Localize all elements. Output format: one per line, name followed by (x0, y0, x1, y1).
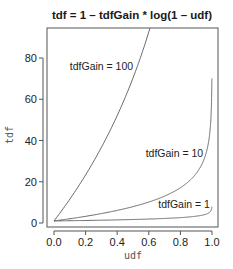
curve-gain-100 (54, 0, 158, 221)
y-axis-label: tdf (4, 126, 15, 144)
y-tick-label: 80 (25, 52, 37, 64)
y-tick-label: 20 (25, 176, 37, 188)
curves (54, 0, 212, 221)
chart-title: tdf = 1 – tdfGain * log(1 – udf) (52, 9, 212, 21)
curve-labels: tdfGain = 100tdfGain = 10tdfGain = 1 (70, 60, 210, 209)
x-tick-label: 0.2 (78, 236, 93, 248)
chart: tdf = 1 – tdfGain * log(1 – udf) 0.00.20… (0, 0, 233, 269)
x-tick-label: 1.0 (204, 236, 219, 248)
x-tick-label: 0.6 (141, 236, 156, 248)
y-tick-label: 40 (25, 135, 37, 147)
curve-label-gain-1: tdfGain = 1 (158, 198, 210, 210)
y-tick-label: 60 (25, 93, 37, 105)
curve-label-gain-100: tdfGain = 100 (70, 60, 133, 72)
x-tick-label: 0.8 (173, 236, 188, 248)
x-tick-label: 0.4 (110, 236, 125, 248)
x-axis: 0.00.20.40.60.81.0 (46, 231, 219, 248)
y-axis: 020406080 (25, 52, 43, 229)
y-tick-label: 0 (31, 217, 37, 229)
x-axis-label: udf (124, 250, 142, 261)
x-tick-label: 0.0 (46, 236, 61, 248)
curve-label-gain-10: tdfGain = 10 (146, 147, 204, 159)
